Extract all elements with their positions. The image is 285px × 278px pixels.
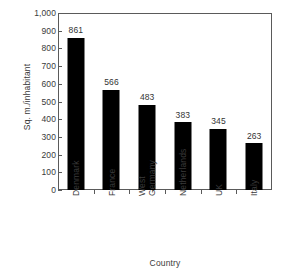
x-axis-category-label-text: UK bbox=[214, 184, 224, 196]
bar-value-label: 861 bbox=[69, 26, 83, 35]
y-axis-tick-mark bbox=[58, 190, 62, 191]
y-axis-tick-label: 800 bbox=[22, 44, 56, 53]
x-axis-category-label-text: Italy bbox=[249, 180, 259, 196]
y-axis-tick-label: 300 bbox=[22, 133, 56, 142]
x-axis-category-label-text: Denmark bbox=[71, 160, 81, 196]
x-axis-tick-mark bbox=[201, 190, 202, 194]
x-axis-tick-mark bbox=[236, 190, 237, 194]
bar-value-label: 566 bbox=[104, 78, 118, 87]
y-axis-tick-label: 0 bbox=[22, 186, 56, 195]
bar-slot: 345 bbox=[201, 13, 237, 190]
x-axis-tick-mark bbox=[129, 190, 130, 194]
bar-value-label: 383 bbox=[176, 111, 190, 120]
bar-chart: Sq. m./inhabitant 0100200300400500600700… bbox=[0, 0, 285, 278]
y-axis-tick-label: 700 bbox=[22, 62, 56, 71]
x-axis-title: Country bbox=[58, 258, 272, 268]
y-axis-tick-label: 900 bbox=[22, 26, 56, 35]
bar-slot: 263 bbox=[236, 13, 272, 190]
y-axis-tick-label: 200 bbox=[22, 150, 56, 159]
bar-value-label: 263 bbox=[247, 132, 261, 141]
y-axis-tick-label: 1,000 bbox=[22, 9, 56, 18]
bar bbox=[210, 129, 227, 190]
y-axis-tick-label: 100 bbox=[22, 168, 56, 177]
y-axis-tick-label: 600 bbox=[22, 80, 56, 89]
x-axis-category-label-text: Netherlands bbox=[178, 149, 188, 196]
x-axis-tick-mark bbox=[165, 190, 166, 194]
x-axis-tick-mark bbox=[94, 190, 95, 194]
x-axis-category-label-text: France bbox=[107, 169, 117, 196]
bars-layer: 861566483383345263 bbox=[58, 13, 272, 190]
y-axis-tick-label: 400 bbox=[22, 115, 56, 124]
bar-value-label: 483 bbox=[140, 93, 154, 102]
bar-slot: 566 bbox=[94, 13, 130, 190]
bar-value-label: 345 bbox=[211, 117, 225, 126]
y-axis-tick-label: 500 bbox=[22, 97, 56, 106]
x-axis-category-label-text: WestGermany bbox=[137, 160, 157, 196]
